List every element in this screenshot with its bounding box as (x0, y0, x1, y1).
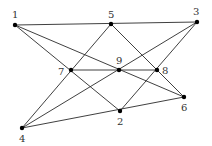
line-3-9-4 (22, 22, 197, 128)
edges-layer (15, 22, 197, 128)
node-7 (69, 68, 73, 72)
node-label-4: 4 (19, 133, 25, 144)
node-2 (118, 109, 122, 113)
node-label-2: 2 (117, 116, 123, 127)
node-5 (109, 22, 113, 26)
node-label-5: 5 (108, 9, 114, 20)
line-5-7-4 (22, 24, 111, 128)
node-1 (13, 23, 17, 27)
node-label-3: 3 (193, 6, 199, 17)
node-4 (20, 126, 24, 130)
node-label-1: 1 (12, 9, 18, 20)
line-1-7-2 (15, 25, 120, 111)
labels-layer: 123456789 (12, 6, 199, 144)
node-label-9: 9 (116, 55, 122, 66)
pappus-configuration-diagram: 123456789 (0, 0, 212, 146)
node-label-8: 8 (162, 65, 168, 76)
node-label-7: 7 (58, 66, 64, 77)
line-1-9-6 (15, 25, 184, 97)
node-8 (155, 68, 159, 72)
line-4-2-6 (22, 97, 184, 128)
node-label-6: 6 (181, 102, 187, 113)
node-6 (182, 95, 186, 99)
line-1-5-3 (15, 22, 197, 25)
node-9 (117, 68, 121, 72)
node-3 (195, 20, 199, 24)
